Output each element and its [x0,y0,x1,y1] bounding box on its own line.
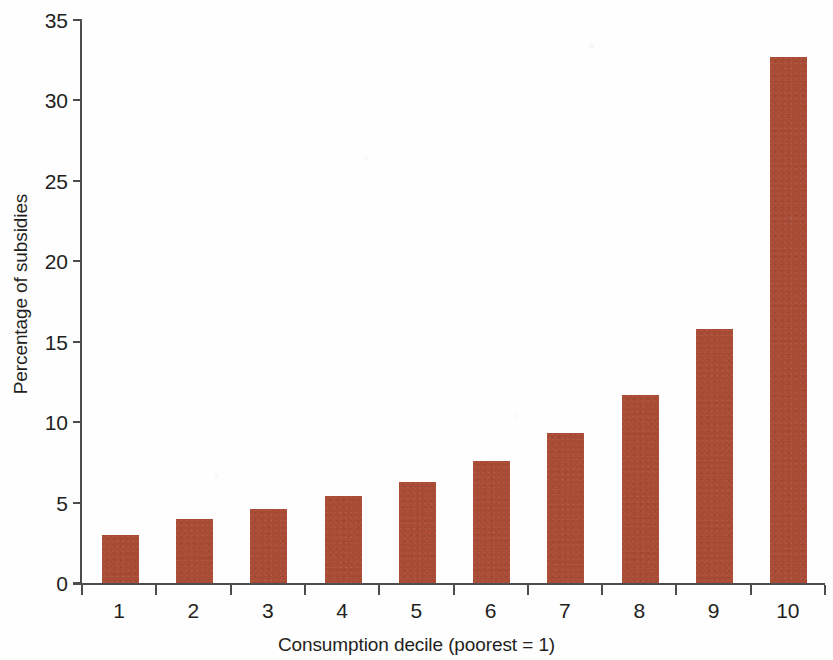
y-axis-tick-labels: 05101520253035 [24,0,68,660]
y-axis-tick-label: 10 [26,412,68,433]
x-axis-title: Consumption decile (poorest = 1) [0,634,833,656]
x-axis-tick-label: 6 [461,600,521,621]
bar [622,395,659,583]
x-axis-tick-label: 3 [238,600,298,621]
plot-area [82,20,825,583]
x-axis-tick-mark [230,585,232,595]
x-axis-tick-mark [155,585,157,595]
x-axis-tick-label: 5 [386,600,446,621]
y-axis-tick-label: 25 [26,170,68,191]
bar [102,535,139,583]
y-axis-tick-label: 30 [26,90,68,111]
x-axis-tick-mark [824,585,826,595]
x-axis-line [73,583,825,585]
x-axis-tick-mark [304,585,306,595]
bar [399,482,436,583]
x-axis-tick-label: 10 [758,600,818,621]
y-axis-tick-label: 35 [26,10,68,31]
x-axis-tick-mark [453,585,455,595]
x-axis-tick-label: 7 [535,600,595,621]
bar [547,433,584,583]
x-axis-tick-mark [601,585,603,595]
x-axis-tick-label: 8 [609,600,669,621]
y-axis-tick-label: 0 [26,573,68,594]
bar [473,461,510,583]
x-axis-tick-label: 9 [684,600,744,621]
y-axis-tick-label: 5 [26,492,68,513]
bar [176,519,213,583]
bar [325,496,362,583]
x-axis-tick-label: 4 [312,600,372,621]
bar [250,509,287,583]
y-axis-tick-label: 20 [26,251,68,272]
bar [696,329,733,583]
x-axis-tick-label: 1 [89,600,149,621]
x-axis-tick-mark [378,585,380,595]
y-axis-tick-label: 15 [26,331,68,352]
bar [770,57,807,583]
bar-chart: Percentage of subsidies 05101520253035 1… [0,0,833,660]
x-axis-tick-mark [527,585,529,595]
x-axis-tick-mark [750,585,752,595]
x-axis-tick-mark [81,585,83,595]
x-axis-tick-label: 2 [163,600,223,621]
x-axis-tick-mark [675,585,677,595]
